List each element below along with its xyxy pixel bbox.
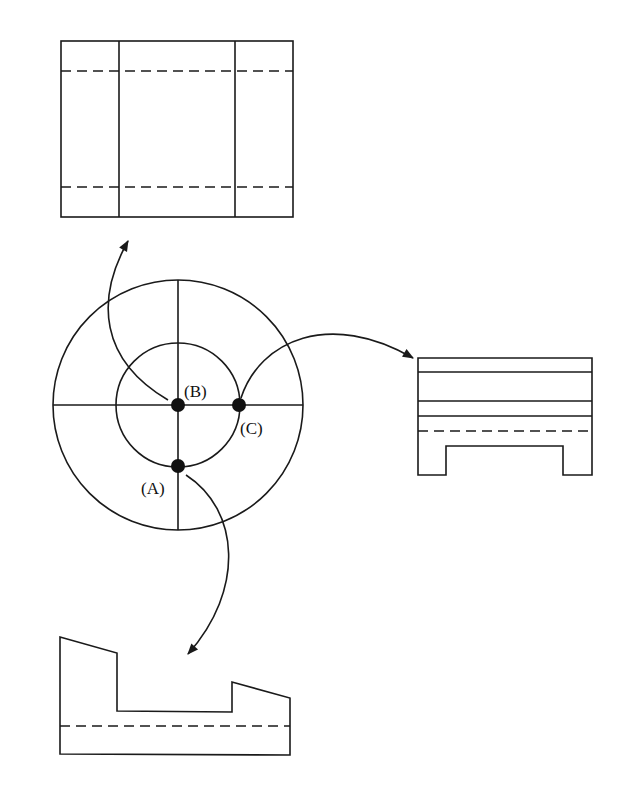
arrow-b-to-top-view xyxy=(108,241,168,400)
point-b-marker xyxy=(171,398,185,412)
point-c-marker xyxy=(232,398,246,412)
top-view xyxy=(61,41,293,217)
projection-diagram: (B) (C) (A) xyxy=(0,0,627,797)
label-c: (C) xyxy=(240,419,263,438)
point-a-marker xyxy=(171,459,185,473)
arrow-a-to-bottom-view xyxy=(186,475,229,654)
arrow-c-to-right-view xyxy=(241,334,413,398)
bottom-view xyxy=(60,637,290,755)
label-a: (A) xyxy=(141,479,165,498)
label-b: (B) xyxy=(184,382,207,401)
right-view xyxy=(418,358,592,475)
